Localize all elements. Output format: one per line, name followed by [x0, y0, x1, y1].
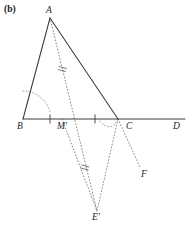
point-label-A: A — [46, 6, 52, 16]
point-label-B: B — [17, 122, 23, 132]
arc-near-C — [100, 120, 118, 127]
point-label-Mprime: M' — [57, 122, 67, 132]
segment-C-Eprime — [97, 119, 118, 211]
geometry-figure-panel: (b) A B M' C D E' F — [0, 0, 194, 234]
segment-AB — [23, 18, 50, 119]
segment-Mprime-Eprime — [62, 119, 97, 211]
figure-svg-canvas — [0, 0, 194, 234]
segment-AC — [50, 18, 118, 119]
point-label-D: D — [173, 122, 180, 132]
point-label-Eprime: E' — [92, 213, 100, 223]
panel-label: (b) — [4, 5, 16, 15]
hash-on-Mprime-Eprime — [81, 165, 90, 170]
point-label-C: C — [126, 122, 132, 132]
point-label-F: F — [141, 170, 147, 180]
segment-A-Eprime — [50, 18, 97, 211]
